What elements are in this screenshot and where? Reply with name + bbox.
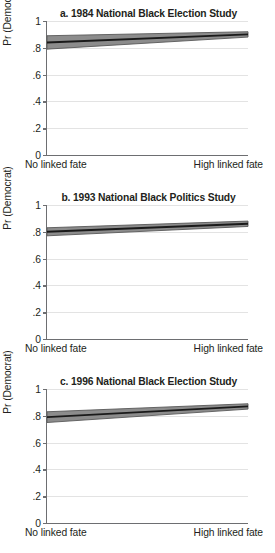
ytick-label-1: 1: [1, 384, 41, 395]
ytick-0.0: [43, 155, 47, 156]
ytick-0.0: [43, 523, 47, 524]
panel-a-ci-band-and-line: [47, 21, 248, 155]
panel-c-title: c. 1996 National Black Election Study: [0, 376, 275, 387]
ytick-label-.6: .6: [1, 69, 41, 80]
ytick-0.0: [43, 339, 47, 340]
panel-c-plot-area: 1 .8 .6 .4 .2 0: [47, 389, 248, 523]
panel-c-x-axis-line: [46, 523, 248, 524]
panel-c-ci-band-and-line: [47, 389, 248, 523]
panel-b-x-label-right: High linked fate: [194, 343, 263, 354]
panel-b-x-label-left: No linked fate: [25, 343, 87, 354]
chart-panel-b: b. 1993 National Black Politics Study Pr…: [0, 184, 275, 369]
ytick-label-.6: .6: [1, 253, 41, 264]
panel-b-x-axis-line: [46, 339, 248, 340]
panel-a-x-label-left: No linked fate: [25, 159, 87, 170]
ytick-label-.2: .2: [1, 491, 41, 502]
ytick-label-.8: .8: [1, 410, 41, 421]
confidence-band: [47, 404, 248, 423]
ytick-label-1: 1: [1, 200, 41, 211]
panel-a-x-axis-line: [46, 155, 248, 156]
panel-b-title: b. 1993 National Black Politics Study: [0, 192, 275, 203]
chart-panel-c: c. 1996 National Black Election Study Pr…: [0, 368, 275, 553]
ytick-label-.4: .4: [1, 464, 41, 475]
ytick-label-.8: .8: [1, 226, 41, 237]
ytick-label-.2: .2: [1, 123, 41, 134]
panel-a-title: a. 1984 National Black Election Study: [0, 8, 275, 19]
panel-a-plot-area: 1 .8 .6 .4 .2 0: [47, 21, 248, 155]
ytick-label-.8: .8: [1, 42, 41, 53]
panel-a-y-axis-label: Pr (Democrat): [2, 0, 16, 64]
panel-b-plot-area: 1 .8 .6 .4 .2 0: [47, 205, 248, 339]
panel-c-x-label-left: No linked fate: [25, 527, 87, 538]
panel-c-x-label-right: High linked fate: [194, 527, 263, 538]
linked-fate-figure: a. 1984 National Black Election Study Pr…: [0, 0, 275, 553]
ytick-label-.6: .6: [1, 437, 41, 448]
ytick-label-1: 1: [1, 16, 41, 27]
ytick-label-.2: .2: [1, 307, 41, 318]
chart-panel-a: a. 1984 National Black Election Study Pr…: [0, 0, 275, 185]
ytick-label-.4: .4: [1, 96, 41, 107]
ytick-label-.4: .4: [1, 280, 41, 291]
panel-b-ci-band-and-line: [47, 205, 248, 339]
panel-a-x-label-right: High linked fate: [194, 159, 263, 170]
